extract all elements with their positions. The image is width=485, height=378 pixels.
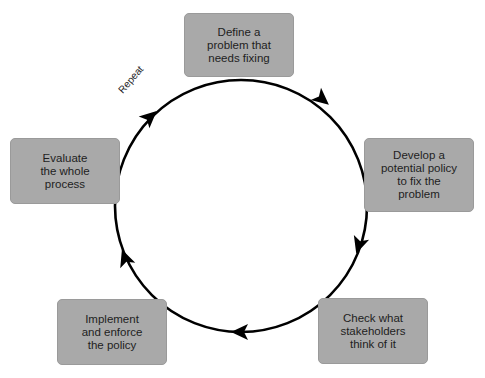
step-develop-policy: Develop a potential policy to fix the pr… <box>364 138 474 212</box>
step-evaluate-process: Evaluate the whole process <box>10 138 120 204</box>
step-label: Define a problem that needs fixing <box>207 26 271 65</box>
arrow-icon <box>114 247 135 268</box>
step-implement-policy: Implement and enforce the policy <box>57 299 167 365</box>
arrow-icon <box>311 88 334 111</box>
step-label: Develop a potential policy to fix the pr… <box>381 149 457 201</box>
step-label: Evaluate the whole process <box>40 152 89 191</box>
step-check-stakeholders: Check what stakeholders think of it <box>318 298 428 364</box>
arrow-icon <box>139 105 162 128</box>
step-define-problem: Define a problem that needs fixing <box>184 13 294 77</box>
step-label: Check what stakeholders think of it <box>340 312 405 351</box>
step-label: Implement and enforce the policy <box>82 313 143 352</box>
